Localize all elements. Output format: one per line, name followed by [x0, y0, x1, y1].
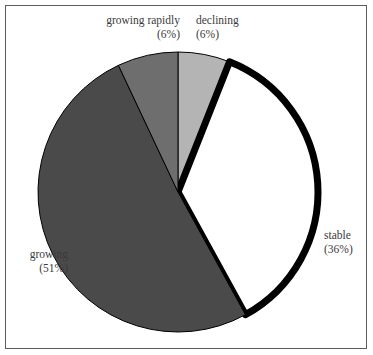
- pie-chart-figure: growing rapidly (6%) declining (6%) stab…: [0, 0, 373, 355]
- pie-svg: [0, 0, 373, 355]
- slice-label-growing-percent: (51%): [2, 262, 68, 276]
- slice-label-declining-percent: (6%): [196, 28, 286, 42]
- slice-label-growing-name: growing: [2, 248, 68, 262]
- slice-label-declining: declining (6%): [196, 14, 286, 41]
- slice-label-stable-percent: (36%): [324, 243, 372, 257]
- pie-plot-area: [0, 0, 373, 355]
- slice-label-stable: stable (36%): [324, 229, 372, 256]
- slice-label-stable-name: stable: [324, 229, 372, 243]
- slice-label-growing-rapidly-percent: (6%): [84, 28, 180, 42]
- slice-label-growing: growing (51%): [2, 248, 68, 275]
- slice-label-growing-rapidly-name: growing rapidly: [84, 14, 180, 28]
- pie-slice-group: [38, 52, 318, 332]
- slice-label-growing-rapidly: growing rapidly (6%): [84, 14, 180, 41]
- slice-label-declining-name: declining: [196, 14, 286, 28]
